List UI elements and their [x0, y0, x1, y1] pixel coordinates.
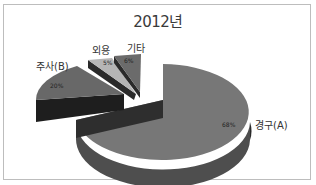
label-d: 기타 [127, 40, 145, 55]
pct-c: 5% [103, 59, 113, 66]
label-c: 외용 [92, 42, 110, 57]
label-b: 주사(B) [36, 58, 69, 73]
pie-chart [0, 0, 316, 185]
label-a: 경구(A) [255, 117, 288, 132]
pct-d: 6% [124, 57, 134, 64]
pct-a: 68% [222, 121, 235, 128]
pct-b: 20% [50, 82, 63, 89]
